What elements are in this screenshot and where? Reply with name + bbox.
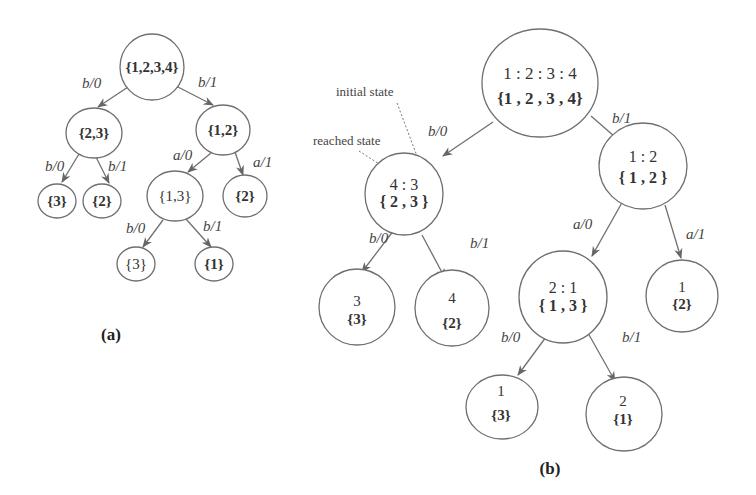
annotation-reached-state: reached state (313, 133, 381, 148)
edge-label: b/1 (108, 158, 127, 174)
edge-b-13-1 (588, 333, 615, 381)
node-set: {3} (491, 407, 510, 423)
panel-b: b/0 b/1 b/0 b/1 a/0 a/1 b/0 b/1 initial … (313, 29, 718, 478)
node-state: 1 : 2 : 3 : 4 (503, 64, 577, 83)
panel-a-caption: (a) (101, 325, 121, 344)
annotation-initial-state: initial state (336, 84, 394, 99)
node-b-root: 1 : 2 : 3 : 4 {1 , 2 , 3 , 4} (482, 29, 598, 137)
edge-label: b/1 (622, 329, 641, 345)
edge-label: a/1 (686, 226, 705, 242)
node-a-13: {1,3} (147, 171, 203, 221)
edge-a-23-3 (62, 154, 79, 182)
node-b-23: 4 : 3 { 2 , 3 } (365, 153, 443, 235)
edge-label: a/0 (173, 147, 193, 163)
panel-a: b/0 b/1 b/0 b/1 a/0 a/1 b/0 b/1 {1,2,3,4… (38, 34, 272, 344)
edge-label: b/1 (198, 74, 217, 90)
node-a-23: {2,3} (66, 108, 122, 158)
node-set: {3} (47, 193, 66, 209)
diagram-canvas: b/0 b/1 b/0 b/1 a/0 a/1 b/0 b/1 {1,2,3,4… (0, 0, 756, 495)
node-set: { 1 , 3 } (539, 297, 588, 314)
node-set: {2} (92, 193, 111, 209)
edge-b-12-13 (592, 199, 624, 256)
edge-label: b/1 (203, 218, 222, 234)
edge-label: b/0 (82, 75, 102, 91)
node-state: 1 (678, 279, 686, 295)
node-b-3-bottom: 1 {3} (466, 375, 538, 439)
node-a-3-bottom: {3} (117, 247, 155, 281)
edge-label: b/0 (45, 158, 65, 174)
node-set: {1} (613, 411, 632, 427)
node-state: 4 (448, 290, 456, 306)
panel-b-caption: (b) (540, 459, 561, 478)
edge-b-12-2 (665, 205, 681, 258)
node-set: { 2 , 3 } (380, 193, 429, 210)
node-state: 2 (619, 393, 627, 409)
edge-label: b/1 (612, 110, 631, 126)
node-state: 1 (497, 383, 505, 399)
node-b-3: 3 {3} (319, 269, 395, 345)
node-set: {2} (442, 315, 461, 331)
edge-label: b/1 (470, 235, 489, 251)
node-b-12: 1 : 2 { 1 , 2 } (599, 123, 687, 209)
node-set: {1,2} (208, 122, 239, 138)
node-set: {3} (125, 256, 147, 272)
node-state: 1 : 2 (629, 148, 657, 165)
node-state: 2 : 1 (549, 279, 577, 296)
edge-label: a/1 (253, 154, 272, 170)
node-set: {3} (347, 311, 366, 327)
node-a-12: {1,2} (196, 105, 250, 155)
node-a-1-bottom: {1} (195, 247, 233, 281)
node-a-2-left: {2} (83, 184, 121, 218)
node-state: 3 (353, 293, 361, 309)
node-set: {1,3} (158, 188, 191, 204)
node-set: {1} (204, 256, 223, 272)
node-set: {2} (672, 296, 691, 312)
node-b-2-right: 1 {2} (646, 260, 718, 332)
edge-b-13-3 (518, 337, 546, 375)
edge-label: b/0 (126, 220, 146, 236)
node-a-2-right: {2} (223, 175, 267, 217)
node-state: 4 : 3 (390, 176, 418, 193)
node-set: {1 , 2 , 3 , 4} (497, 89, 583, 108)
edge-a-root-23 (98, 87, 128, 107)
node-b-13: 2 : 1 { 1 , 3 } (519, 251, 607, 343)
node-a-root: {1,2,3,4} (120, 34, 184, 100)
node-set: {2} (235, 188, 254, 204)
node-b-2-left: 4 {2} (415, 270, 489, 346)
edge-label: b/0 (501, 329, 521, 345)
edge-a-12-2 (235, 152, 243, 175)
edge-label: b/0 (369, 230, 389, 246)
edge-label: a/0 (573, 216, 593, 232)
edge-label: b/0 (428, 123, 448, 139)
node-a-3-left: {3} (38, 184, 76, 218)
edge-b-root-23 (443, 122, 493, 156)
node-set: {1,2,3,4} (125, 59, 178, 75)
edge-a-13-3 (143, 220, 163, 247)
node-set: {2,3} (79, 125, 110, 141)
node-b-1-bottom: 2 {1} (586, 377, 662, 451)
node-set: { 1 , 2 } (619, 169, 668, 186)
